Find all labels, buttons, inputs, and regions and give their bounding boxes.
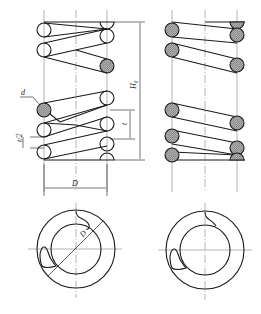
mean-diameter-label: D bbox=[71, 179, 78, 188]
coil-right-hatched bbox=[100, 59, 114, 73]
section-diameter-label: D bbox=[77, 228, 88, 239]
free-height-label: H₀ bbox=[129, 80, 138, 90]
pitch-label: t bbox=[120, 122, 129, 125]
top-view-right bbox=[158, 203, 252, 300]
wire-diameter-label: d bbox=[21, 88, 26, 97]
top-view-left bbox=[28, 203, 122, 298]
coil-left-hatched bbox=[37, 103, 51, 117]
half-pitch-label: t/2 bbox=[15, 134, 24, 142]
front-view-sectioned bbox=[165, 10, 245, 192]
spring-drawing: d t/2 t H₀ D bbox=[0, 0, 261, 314]
front-view-outline bbox=[37, 10, 115, 192]
